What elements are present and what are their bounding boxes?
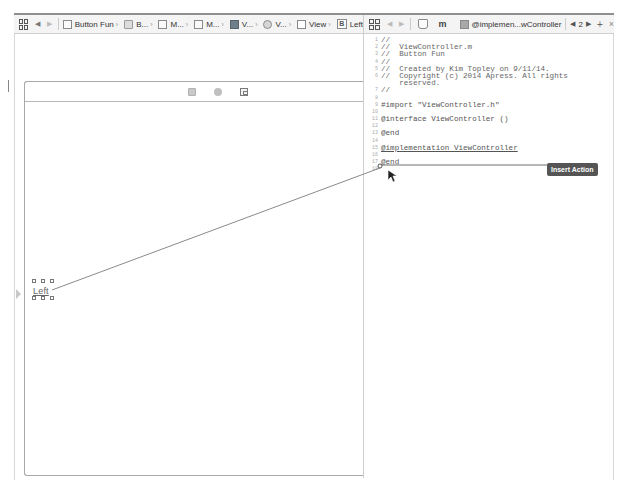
add-editor-button[interactable]: + (597, 19, 603, 30)
code-text: #import "ViewController.h" (381, 102, 499, 109)
implementation-file-icon: m (439, 19, 447, 29)
implementation-symbol-icon (460, 20, 469, 29)
resize-handle[interactable] (32, 279, 36, 283)
code-text: // Button Fun (381, 51, 445, 58)
previous-counterpart-icon[interactable]: ◀ (570, 20, 575, 28)
file-icon (63, 20, 72, 29)
code-line: 3// Button Fun (364, 51, 613, 58)
breadcrumb-label: M... (170, 20, 183, 29)
line-number: 11 (364, 116, 378, 123)
editor-right-border (613, 34, 614, 480)
line-number: 6 (364, 73, 378, 80)
chevron-right-icon: › (186, 21, 188, 28)
resize-handle[interactable] (50, 296, 54, 300)
breadcrumb-label: Left (350, 20, 363, 29)
resize-handle[interactable] (41, 296, 45, 300)
chevron-right-icon: › (150, 21, 152, 28)
line-number: 8 (364, 95, 378, 102)
code-line: 13@end (364, 130, 613, 137)
automatic-mode-icon (418, 19, 428, 29)
breadcrumb-label: View (309, 20, 326, 29)
line-number: 1 (364, 37, 378, 44)
code-line: 9#import "ViewController.h" (364, 102, 613, 109)
next-counterpart-icon[interactable]: ▶ (586, 20, 591, 28)
file-icon (194, 20, 203, 29)
resize-handle[interactable] (32, 296, 36, 300)
button-label: Left (33, 286, 49, 296)
line-number: 17 (364, 159, 378, 166)
line-number: 4 (364, 59, 378, 66)
breadcrumb-symbol[interactable]: @implemen...wController (460, 20, 562, 29)
code-line: 11@interface ViewController () (364, 116, 613, 123)
breadcrumb-label: Button Fun (75, 20, 114, 29)
code-text: @end (381, 130, 399, 137)
first-responder-icon[interactable] (214, 88, 222, 96)
line-number: 14 (364, 138, 378, 145)
resize-handle[interactable] (50, 279, 54, 283)
window-edge-mark (8, 80, 9, 92)
line-number: 18 (364, 166, 378, 173)
breadcrumb-file[interactable]: m (439, 19, 450, 29)
forward-arrow-icon[interactable]: ▶ (399, 20, 404, 28)
line-number: 3 (364, 51, 378, 58)
breadcrumb-label: B... (136, 20, 148, 29)
breadcrumb-scene[interactable]: V... (230, 20, 253, 29)
counterpart-index: 2 (578, 20, 582, 29)
back-arrow-icon[interactable]: ◀ (35, 20, 40, 28)
back-arrow-icon[interactable]: ◀ (387, 20, 392, 28)
line-number: 10 (364, 109, 378, 116)
breadcrumb-storyboard-base[interactable]: M... (194, 20, 219, 29)
code-text: @interface ViewController () (381, 116, 509, 123)
line-number: 2 (364, 44, 378, 51)
button-icon: B (337, 19, 347, 29)
line-number: 5 (364, 66, 378, 73)
chevron-right-icon: › (328, 21, 330, 28)
code-editor[interactable]: 1// 2// ViewController.m 3// Button Fun … (364, 34, 613, 478)
left-button[interactable]: Left (32, 279, 58, 303)
scene-dock (25, 82, 363, 102)
breadcrumb-button-left[interactable]: B Left (337, 19, 363, 29)
breadcrumb-label: V... (275, 20, 286, 29)
close-editor-button[interactable]: × (609, 19, 614, 29)
line-number: 12 (364, 123, 378, 130)
assistant-mode-button[interactable] (418, 19, 431, 29)
chevron-right-icon: › (255, 21, 257, 28)
assistant-jump-bar: ◀ ▶ m @implemen...wController ◀ 2 ▶ + × (364, 15, 614, 34)
file-icon (158, 20, 167, 29)
breadcrumb-folder[interactable]: B... (124, 20, 148, 29)
code-line-insertion-target[interactable]: 15@implementation ViewController (364, 145, 613, 152)
line-number: 13 (364, 130, 378, 137)
chevron-right-icon: › (222, 21, 224, 28)
canvas-left-border (14, 34, 15, 480)
breadcrumb-view[interactable]: View (297, 20, 326, 29)
chevron-right-icon: › (116, 21, 118, 28)
line-number: 15 (364, 145, 378, 152)
view-controller-scene[interactable] (24, 81, 363, 476)
view-controller-icon[interactable] (188, 88, 196, 96)
code-text: @end (381, 159, 399, 166)
breadcrumb-view-controller[interactable]: V... (263, 20, 286, 29)
line-number: 9 (364, 102, 378, 109)
breadcrumb-storyboard-file[interactable]: M... (158, 20, 183, 29)
jump-bar-separator (58, 18, 59, 30)
symbol-label: @implemen...wController (472, 20, 562, 29)
code-line: 12 (364, 123, 613, 130)
breadcrumb-project[interactable]: Button Fun (63, 20, 114, 29)
view-controller-icon (263, 20, 272, 29)
code-line-wrap: reserved. (364, 80, 613, 87)
code-line: 7// (364, 87, 613, 94)
related-items-grid-icon[interactable] (19, 19, 28, 30)
related-items-grid-icon[interactable] (369, 19, 380, 30)
insert-action-tooltip: Insert Action (547, 163, 598, 176)
folder-icon (124, 20, 133, 29)
storyboard-scene-icon (230, 20, 239, 29)
jump-bar-separator (410, 18, 411, 30)
breadcrumb-label: V... (242, 20, 253, 29)
jump-bar-separator (565, 18, 566, 30)
forward-arrow-icon[interactable]: ▶ (47, 20, 52, 28)
resize-handle[interactable] (41, 279, 45, 283)
view-icon (297, 20, 306, 29)
breadcrumb-label: M... (206, 20, 219, 29)
line-number: 16 (364, 152, 378, 159)
exit-icon[interactable] (240, 88, 248, 96)
